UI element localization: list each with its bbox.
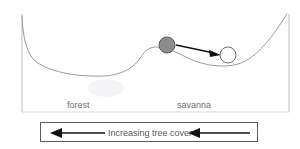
landscape-curve <box>22 14 287 76</box>
x-tick-label-forest: forest <box>67 100 90 111</box>
watermark-smudge <box>88 79 124 97</box>
x-tick-label-savanna: savanna <box>177 100 211 111</box>
ball-forest-state <box>159 37 175 53</box>
ball-savanna-state <box>220 47 236 63</box>
stability-landscape-plot <box>0 0 300 120</box>
legend-label: Increasing tree cover <box>41 123 259 143</box>
transition-arrow-shaft <box>176 45 214 53</box>
legend-box: Increasing tree cover <box>40 122 258 142</box>
figure-canvas: forest savanna Increasing tree cover <box>0 0 300 149</box>
transition-arrow-head <box>209 50 221 57</box>
